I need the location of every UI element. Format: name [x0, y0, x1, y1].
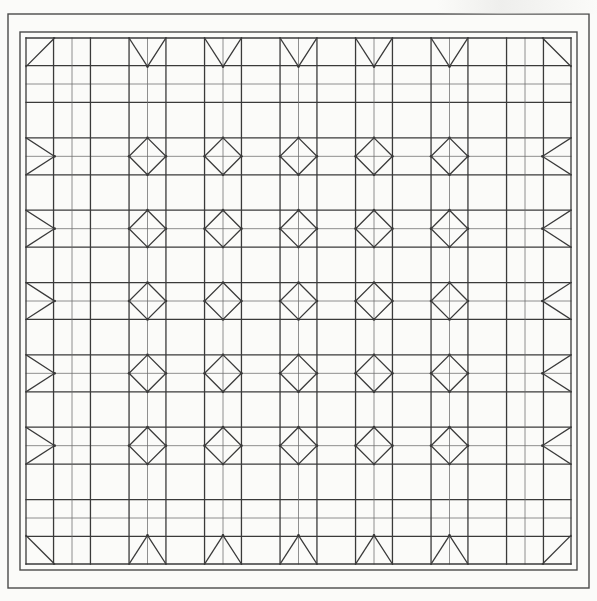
- junction-dot: [391, 300, 394, 303]
- junction-dot: [448, 137, 451, 140]
- junction-dot: [146, 534, 149, 537]
- figure-root: [0, 0, 597, 601]
- junction-dot: [53, 227, 56, 230]
- junction-dot: [430, 372, 433, 375]
- junction-dot: [165, 372, 168, 375]
- junction-dot: [222, 534, 225, 537]
- junction-dot: [448, 65, 451, 68]
- junction-dot: [354, 372, 357, 375]
- junction-dot: [373, 281, 376, 284]
- junction-dot: [448, 426, 451, 429]
- junction-dot: [279, 227, 282, 230]
- junction-dot: [297, 534, 300, 537]
- junction-dot: [448, 534, 451, 537]
- junction-dot: [240, 372, 243, 375]
- junction-dot: [467, 155, 470, 158]
- junction-dot: [373, 209, 376, 212]
- junction-dot: [297, 137, 300, 140]
- junction-dot: [297, 463, 300, 466]
- junction-dot: [279, 155, 282, 158]
- junction-dot: [391, 155, 394, 158]
- junction-dot: [165, 155, 168, 158]
- junction-dot: [430, 444, 433, 447]
- junction-dot: [430, 300, 433, 303]
- junction-dot: [541, 155, 544, 158]
- junction-dot: [128, 227, 131, 230]
- junction-dot: [165, 300, 168, 303]
- junction-dot: [146, 426, 149, 429]
- junction-dot: [222, 137, 225, 140]
- junction-dot: [279, 372, 282, 375]
- junction-dot: [240, 444, 243, 447]
- junction-dot: [373, 534, 376, 537]
- junction-dot: [146, 318, 149, 321]
- junction-dot: [240, 300, 243, 303]
- junction-dot: [373, 137, 376, 140]
- junction-dot: [203, 444, 206, 447]
- junction-dot: [146, 173, 149, 176]
- junction-dot: [373, 65, 376, 68]
- junction-dot: [448, 246, 451, 249]
- junction-dot: [373, 173, 376, 176]
- junction-dot: [128, 372, 131, 375]
- junction-dot: [240, 227, 243, 230]
- junction-dot: [53, 372, 56, 375]
- junction-dot: [165, 444, 168, 447]
- junction-dot: [203, 300, 206, 303]
- junction-dot: [297, 209, 300, 212]
- junction-dot: [297, 390, 300, 393]
- junction-dot: [53, 300, 56, 303]
- junction-dot: [240, 155, 243, 158]
- junction-dot: [373, 390, 376, 393]
- junction-dot: [297, 246, 300, 249]
- junction-dot: [541, 372, 544, 375]
- junction-dot: [222, 173, 225, 176]
- junction-dot: [222, 463, 225, 466]
- junction-dot: [373, 426, 376, 429]
- junction-dot: [53, 155, 56, 158]
- junction-dot: [297, 65, 300, 68]
- junction-dot: [448, 390, 451, 393]
- junction-dot: [467, 444, 470, 447]
- junction-dot: [146, 354, 149, 357]
- junction-dot: [128, 444, 131, 447]
- junction-dot: [146, 137, 149, 140]
- junction-dot: [203, 227, 206, 230]
- junction-dot: [373, 246, 376, 249]
- junction-dot: [203, 155, 206, 158]
- junction-dot: [354, 300, 357, 303]
- junction-dot: [391, 372, 394, 375]
- junction-dot: [541, 227, 544, 230]
- junction-dot: [146, 65, 149, 68]
- junction-dot: [430, 155, 433, 158]
- junction-dot: [128, 155, 131, 158]
- junction-dot: [373, 318, 376, 321]
- junction-dot: [222, 281, 225, 284]
- junction-dot: [391, 444, 394, 447]
- junction-dot: [373, 463, 376, 466]
- junction-dot: [297, 173, 300, 176]
- quilt-pattern-drawing: [0, 0, 597, 601]
- junction-dot: [448, 281, 451, 284]
- junction-dot: [297, 426, 300, 429]
- junction-dot: [448, 173, 451, 176]
- junction-dot: [146, 281, 149, 284]
- junction-dot: [222, 318, 225, 321]
- junction-dot: [165, 227, 168, 230]
- junction-dot: [222, 65, 225, 68]
- junction-dot: [448, 463, 451, 466]
- junction-dot: [467, 227, 470, 230]
- junction-dot: [146, 209, 149, 212]
- junction-dot: [53, 444, 56, 447]
- junction-dot: [222, 246, 225, 249]
- junction-dot: [316, 155, 319, 158]
- junction-dot: [222, 426, 225, 429]
- junction-dot: [541, 300, 544, 303]
- junction-dot: [541, 444, 544, 447]
- junction-dot: [316, 444, 319, 447]
- junction-dot: [222, 354, 225, 357]
- junction-dot: [373, 354, 376, 357]
- junction-dot: [430, 227, 433, 230]
- junction-dot: [467, 372, 470, 375]
- junction-dot: [297, 318, 300, 321]
